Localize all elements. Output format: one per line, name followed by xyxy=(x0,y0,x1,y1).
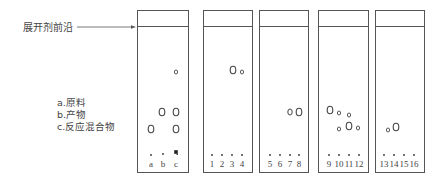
solvent-front-label: 展开剂前沿 xyxy=(23,19,73,34)
legend-item-raw-material: a.原料 xyxy=(57,97,115,109)
lane-label: a xyxy=(147,159,155,169)
tlc-plate-3 xyxy=(260,11,309,173)
tlc-spot xyxy=(337,127,340,131)
origin-dot xyxy=(298,154,300,156)
lane-label: 4 xyxy=(238,159,246,169)
lane-label: 12 xyxy=(353,159,365,169)
tlc-diagram: 展开剂前沿 a.原料 b.产物 c.反应混合物 abc1234567891011… xyxy=(0,0,446,184)
origin-dot xyxy=(393,154,395,156)
plate-border xyxy=(204,11,253,173)
origin-dot xyxy=(338,154,340,156)
origin-dot xyxy=(162,153,164,155)
tlc-spot xyxy=(347,113,350,117)
tlc-spot xyxy=(240,70,243,74)
origin-dot xyxy=(328,154,330,156)
lane-label: 6 xyxy=(276,159,284,169)
tlc-spot xyxy=(337,111,340,115)
origin-dot xyxy=(413,154,415,156)
plate-border xyxy=(138,11,189,173)
tlc-spot xyxy=(173,108,179,116)
tlc-spot xyxy=(356,126,359,130)
origin-dot xyxy=(269,154,271,156)
tlc-plate-4 xyxy=(319,11,369,173)
origin-dot xyxy=(348,154,350,156)
origin-dot xyxy=(211,154,213,156)
lane-label: 1 xyxy=(208,159,216,169)
lane-label: 2 xyxy=(218,159,226,169)
tlc-spot xyxy=(393,123,399,131)
tlc-spot xyxy=(346,122,352,130)
origin-dot xyxy=(241,154,243,156)
origin-dot xyxy=(231,154,233,156)
tlc-spot xyxy=(148,125,154,133)
lane-label: 5 xyxy=(266,159,274,169)
tlc-spot xyxy=(288,109,292,115)
tlc-plate-2 xyxy=(204,11,253,173)
origin-dot xyxy=(279,154,281,156)
origin-dot xyxy=(383,154,385,156)
lane-label: 8 xyxy=(295,159,303,169)
lane-label: b xyxy=(159,159,167,169)
legend-item-reaction-mixture: c.反应混合物 xyxy=(57,121,115,133)
legend-item-product: b.产物 xyxy=(57,109,115,121)
origin-marker-square xyxy=(174,150,178,154)
lane-label: c xyxy=(172,159,180,169)
lane-label: 7 xyxy=(286,159,294,169)
lane-label: 3 xyxy=(228,159,236,169)
plate-border xyxy=(319,11,369,173)
origin-dot xyxy=(289,154,291,156)
plate-border xyxy=(260,11,309,173)
origin-dot xyxy=(221,154,223,156)
origin-dot xyxy=(150,154,152,156)
tlc-plate-1 xyxy=(138,11,189,173)
tlc-plate-5 xyxy=(376,11,425,173)
tlc-spot xyxy=(174,70,177,74)
tlc-spot xyxy=(327,106,333,114)
tlc-spot xyxy=(296,108,302,116)
origin-dot xyxy=(358,154,360,156)
tlc-spot xyxy=(386,128,389,132)
plate-border xyxy=(376,11,425,173)
lane-label: 16 xyxy=(408,159,420,169)
legend: a.原料 b.产物 c.反应混合物 xyxy=(57,97,115,133)
tlc-spot xyxy=(173,125,179,133)
tlc-spot xyxy=(230,66,236,74)
solvent-front-arrow xyxy=(77,25,136,29)
origin-dot xyxy=(403,154,405,156)
tlc-spot xyxy=(159,108,165,116)
lane-label: 9 xyxy=(325,159,333,169)
